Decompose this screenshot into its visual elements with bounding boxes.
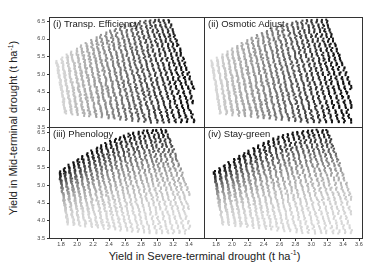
x-tick-mark: [61, 238, 62, 241]
x-tick-mark: [125, 238, 126, 241]
x-tick-label: 3.2: [165, 241, 181, 247]
x-tick-label: 2.0: [224, 241, 240, 247]
y-tick-mark: [47, 185, 50, 186]
y-tick-label: 5.0: [31, 182, 45, 188]
x-tick-label: 2.8: [287, 241, 303, 247]
x-tick-label: 2.6: [272, 241, 288, 247]
x-tick-label: 3.2: [319, 241, 335, 247]
y-tick-label: 5.5: [31, 53, 45, 59]
y-tick-label: 6.0: [31, 35, 45, 41]
x-tick-label: 2.4: [256, 241, 272, 247]
y-tick-mark: [47, 150, 50, 151]
x-tick-label: 1.8: [53, 241, 69, 247]
x-tick-mark: [264, 238, 265, 241]
panel-title: (iii) Phenology: [53, 128, 113, 139]
x-tick-label: 2.2: [85, 241, 101, 247]
y-tick-mark: [47, 167, 50, 168]
x-tick-label: 3.6: [351, 241, 367, 247]
x-tick-mark: [77, 238, 78, 241]
x-tick-mark: [93, 238, 94, 241]
x-tick-mark: [311, 238, 312, 241]
y-tick-label: 4.0: [31, 217, 45, 223]
y-tick-mark: [47, 203, 50, 204]
panel-phenology: (iii) Phenology: [49, 127, 205, 239]
x-tick-label: 2.0: [69, 241, 85, 247]
panel-title: (iv) Stay-green: [208, 128, 270, 139]
y-tick-mark: [47, 132, 50, 133]
panel-stay-green: (iv) Stay-green: [204, 127, 363, 239]
y-tick-label: 6.0: [31, 146, 45, 152]
panel-osmotic-adjust: (ii) Osmotic Adjust: [204, 17, 363, 128]
y-tick-mark: [47, 74, 50, 75]
x-tick-mark: [189, 238, 190, 241]
y-tick-label: 3.5: [31, 235, 45, 241]
y-tick-label: 4.5: [31, 199, 45, 205]
x-tick-mark: [295, 238, 296, 241]
x-tick-label: 3.4: [335, 241, 351, 247]
y-tick-label: 6.5: [31, 18, 45, 24]
y-tick-label: 5.0: [31, 71, 45, 77]
x-tick-mark: [109, 238, 110, 241]
figure: Yield in Mid-terminal drought (t ha-1) Y…: [0, 0, 379, 274]
x-tick-mark: [141, 238, 142, 241]
x-tick-label: 2.8: [133, 241, 149, 247]
x-tick-mark: [173, 238, 174, 241]
y-tick-label: 5.5: [31, 164, 45, 170]
x-tick-mark: [216, 238, 217, 241]
y-tick-mark: [47, 56, 50, 57]
x-tick-mark: [359, 238, 360, 241]
x-axis-label: Yield in Severe-terminal drought (t ha-1…: [0, 249, 379, 262]
y-axis-label: Yield in Mid-terminal drought (t ha-1): [7, 41, 20, 216]
y-tick-label: 4.0: [31, 106, 45, 112]
y-tick-mark: [47, 39, 50, 40]
x-tick-label: 3.0: [149, 241, 165, 247]
x-tick-mark: [232, 238, 233, 241]
y-tick-mark: [47, 92, 50, 93]
scatter-plot: [204, 127, 363, 239]
scatter-plot: [49, 17, 205, 128]
scatter-plot: [49, 127, 205, 239]
x-tick-label: 3.4: [181, 241, 197, 247]
panel-title: (i) Transp. Efficiency: [53, 18, 139, 29]
x-tick-mark: [280, 238, 281, 241]
x-tick-mark: [248, 238, 249, 241]
x-tick-mark: [343, 238, 344, 241]
y-tick-label: 6.5: [31, 129, 45, 135]
x-tick-label: 2.2: [240, 241, 256, 247]
y-tick-mark: [47, 238, 50, 239]
y-tick-mark: [47, 127, 50, 128]
y-tick-mark: [47, 109, 50, 110]
y-tick-label: 4.5: [31, 88, 45, 94]
x-tick-mark: [157, 238, 158, 241]
x-tick-label: 2.6: [117, 241, 133, 247]
y-tick-mark: [47, 220, 50, 221]
y-tick-mark: [47, 21, 50, 22]
x-tick-mark: [327, 238, 328, 241]
panel-title: (ii) Osmotic Adjust: [208, 18, 285, 29]
x-tick-label: 2.4: [101, 241, 117, 247]
x-tick-label: 1.8: [208, 241, 224, 247]
scatter-plot: [204, 17, 363, 128]
panel-transp-efficiency: (i) Transp. Efficiency: [49, 17, 205, 128]
x-tick-label: 3.0: [303, 241, 319, 247]
